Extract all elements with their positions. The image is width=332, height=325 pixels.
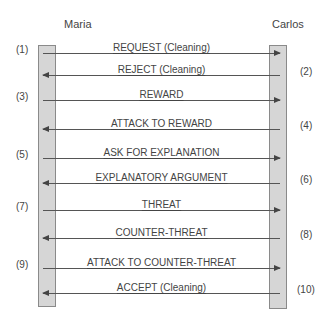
message-label: THREAT [43, 199, 280, 210]
message-label: COUNTER-THREAT [43, 227, 280, 238]
message-label: REJECT (Cleaning) [43, 64, 280, 75]
arrow-right-icon [274, 50, 281, 56]
step-number: (2) [300, 66, 312, 77]
arrow-left-icon [42, 290, 49, 296]
step-number: (6) [300, 174, 312, 185]
message-label: REWARD [43, 89, 280, 100]
message-label: ASK FOR EXPLANATION [43, 147, 280, 158]
arrow-right-icon [274, 207, 281, 213]
message-arrow: EXPLANATORY ARGUMENT [43, 183, 280, 184]
message-arrow: ATTACK TO REWARD [43, 129, 280, 130]
step-number: (1) [16, 44, 28, 55]
message-arrow: REWARD [43, 100, 280, 101]
arrow-right-icon [274, 97, 281, 103]
step-number: (9) [16, 259, 28, 270]
message-label: ATTACK TO COUNTER-THREAT [43, 257, 280, 268]
message-arrow: COUNTER-THREAT [43, 238, 280, 239]
message-label: ATTACK TO REWARD [43, 118, 280, 129]
message-label: ACCEPT (Cleaning) [43, 282, 280, 293]
arrow-left-icon [42, 235, 49, 241]
arrow-left-icon [42, 72, 49, 78]
actor-maria: Maria [64, 18, 92, 30]
message-arrow: REQUEST (Cleaning) [43, 53, 280, 54]
actor-carlos: Carlos [272, 18, 304, 30]
message-label: EXPLANATORY ARGUMENT [43, 172, 280, 183]
step-number: (4) [300, 120, 312, 131]
message-arrow: ATTACK TO COUNTER-THREAT [43, 268, 280, 269]
arrow-left-icon [42, 180, 49, 186]
arrow-right-icon [274, 155, 281, 161]
arrow-right-icon [274, 265, 281, 271]
message-arrow: ASK FOR EXPLANATION [43, 158, 280, 159]
step-number: (3) [16, 91, 28, 102]
arrow-left-icon [42, 126, 49, 132]
message-arrow: THREAT [43, 210, 280, 211]
message-arrow: REJECT (Cleaning) [43, 75, 280, 76]
step-number: (7) [16, 201, 28, 212]
step-number: (8) [300, 229, 312, 240]
step-number: (5) [16, 149, 28, 160]
message-arrow: ACCEPT (Cleaning) [43, 293, 280, 294]
message-label: REQUEST (Cleaning) [43, 42, 280, 53]
step-number: (10) [297, 284, 315, 295]
